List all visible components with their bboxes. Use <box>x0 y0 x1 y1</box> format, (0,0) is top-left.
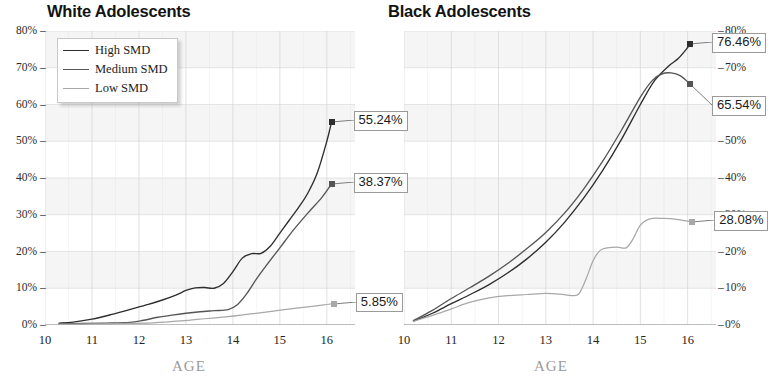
panel-title-black: Black Adolescents <box>388 2 531 21</box>
y-tick-label: – 20% <box>718 246 746 258</box>
legend-label-medium: Medium SMD <box>95 62 168 77</box>
x-tick-label: 15 <box>626 334 654 347</box>
y-tick-label: – 40% <box>718 172 746 184</box>
x-tick-label: 12 <box>485 334 513 347</box>
x-tick-label: 13 <box>172 334 200 347</box>
data-point-marker <box>689 219 695 225</box>
plot-panel-black <box>404 31 716 325</box>
x-tick-label: 11 <box>78 334 106 347</box>
data-point-marker <box>331 301 337 307</box>
panel-title-white: White Adolescents <box>47 2 191 21</box>
legend-item-low: Low SMD <box>63 79 148 98</box>
y-tick-label: – 50% <box>718 135 746 147</box>
legend-item-medium: Medium SMD <box>63 60 168 79</box>
legend: High SMD Medium SMD Low SMD <box>57 38 178 103</box>
legend-swatch-medium-icon <box>63 69 89 70</box>
y-tick-label: 20% – <box>0 246 44 258</box>
y-tick-label: – 0% <box>718 319 740 331</box>
data-point-marker <box>687 81 693 87</box>
x-tick-label: 12 <box>125 334 153 347</box>
y-tick-label: – 10% <box>718 282 746 294</box>
x-axis-title-black: AGE <box>534 358 568 375</box>
x-tick-label: 14 <box>219 334 247 347</box>
data-label-callout: 65.54% <box>712 96 766 116</box>
x-tick-label: 13 <box>532 334 560 347</box>
x-tick-label: 16 <box>674 334 702 347</box>
data-point-marker <box>329 181 335 187</box>
legend-swatch-low-icon <box>63 88 89 89</box>
y-tick-label: 60% – <box>0 99 44 111</box>
legend-item-high: High SMD <box>63 41 150 60</box>
x-tick-label: 15 <box>266 334 294 347</box>
x-tick-label: 10 <box>390 334 418 347</box>
data-label-callout: 76.46% <box>712 33 766 53</box>
data-label-callout: 5.85% <box>356 293 403 313</box>
data-point-marker <box>329 119 335 125</box>
y-tick-label: 40% – <box>0 172 44 184</box>
x-tick-label: 11 <box>437 334 465 347</box>
plot-canvas-black <box>404 31 716 325</box>
y-tick-label: 80% – <box>0 25 44 37</box>
x-tick-label: 16 <box>313 334 341 347</box>
y-tick-label: 30% – <box>0 209 44 221</box>
y-tick-label: 0% – <box>0 319 44 331</box>
legend-label-high: High SMD <box>95 43 150 58</box>
data-label-callout: 38.37% <box>354 173 408 193</box>
data-label-callout: 55.24% <box>354 111 408 131</box>
x-tick-label: 10 <box>31 334 59 347</box>
figure-root: White Adolescents Black Adolescents High… <box>0 0 768 391</box>
legend-label-low: Low SMD <box>95 81 148 96</box>
y-tick-label: 10% – <box>0 282 44 294</box>
data-point-marker <box>687 41 693 47</box>
data-label-callout: 28.08% <box>714 211 768 231</box>
x-axis-title-white: AGE <box>172 358 206 375</box>
x-tick-label: 14 <box>579 334 607 347</box>
y-tick-label: 70% – <box>0 62 44 74</box>
legend-swatch-high-icon <box>63 50 89 51</box>
y-tick-label: 50% – <box>0 135 44 147</box>
y-tick-label: – 70% <box>718 62 746 74</box>
